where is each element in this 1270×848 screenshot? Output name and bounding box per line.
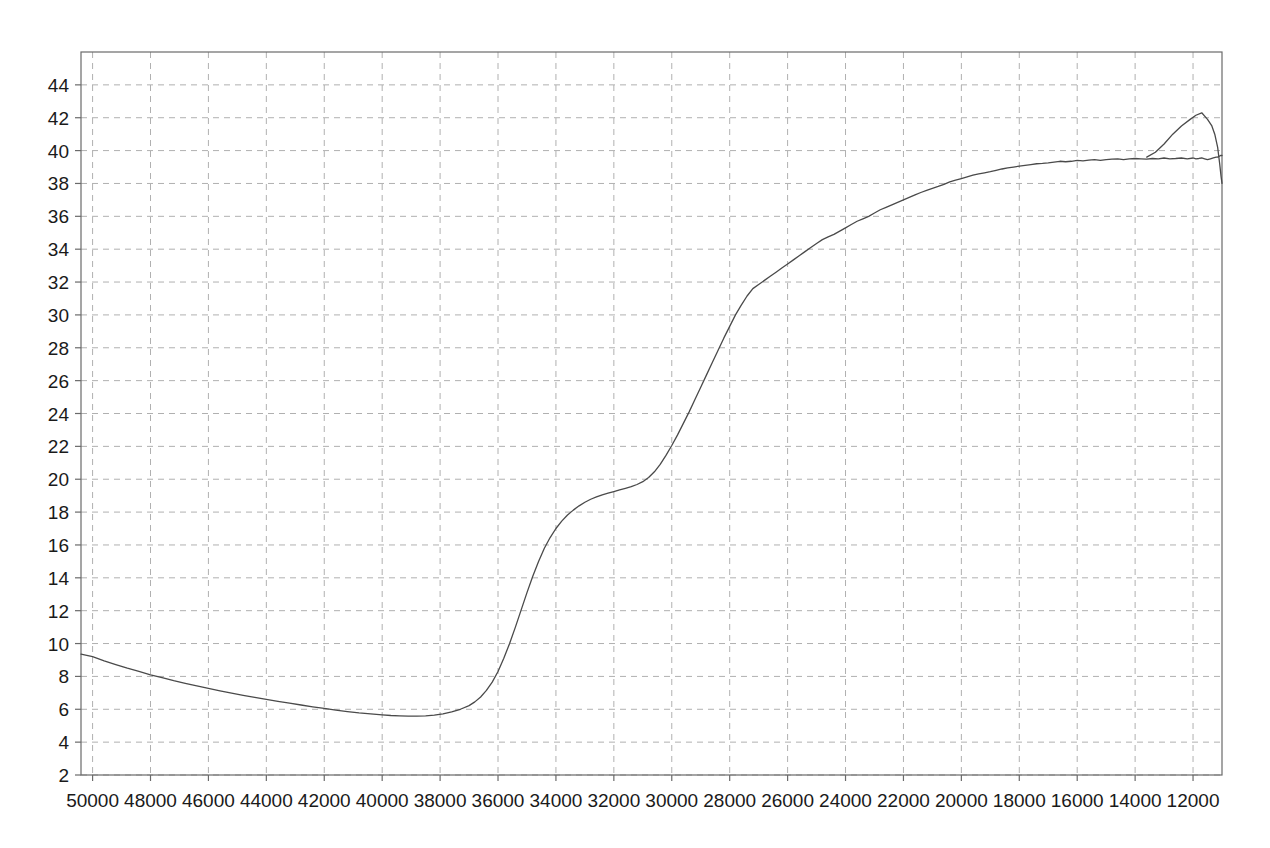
- x-tick-label: 30000: [645, 791, 698, 810]
- x-tick-label: 38000: [414, 791, 467, 810]
- x-tick-label: 28000: [703, 791, 756, 810]
- y-tick-label: 4: [0, 733, 69, 752]
- x-tick-label: 12000: [1167, 791, 1220, 810]
- y-tick-label: 22: [0, 437, 69, 456]
- y-tick-label: 16: [0, 535, 69, 554]
- y-tick-label: 12: [0, 601, 69, 620]
- x-tick-label: 36000: [472, 791, 525, 810]
- y-tick-label: 8: [0, 667, 69, 686]
- x-tick-label: 34000: [530, 791, 583, 810]
- y-tick-label: 42: [0, 108, 69, 127]
- y-tick-label: 40: [0, 141, 69, 160]
- y-tick-label: 36: [0, 207, 69, 226]
- chart-container: 4442403836343230282624222018161412108642…: [0, 0, 1270, 848]
- x-tick-label: 48000: [124, 791, 177, 810]
- grid-lines: [81, 52, 1222, 775]
- y-tick-label: 2: [0, 766, 69, 785]
- y-tick-label: 44: [0, 75, 69, 94]
- y-tick-label: 28: [0, 338, 69, 357]
- x-tick-label: 32000: [587, 791, 640, 810]
- y-tick-label: 26: [0, 371, 69, 390]
- y-tick-label: 34: [0, 240, 69, 259]
- x-tick-label: 14000: [1109, 791, 1162, 810]
- x-tick-label: 42000: [298, 791, 351, 810]
- x-tick-label: 16000: [1051, 791, 1104, 810]
- plot-canvas: [0, 0, 1270, 848]
- x-tick-label: 18000: [993, 791, 1046, 810]
- x-tick-label: 50000: [66, 791, 119, 810]
- x-tick-label: 22000: [877, 791, 930, 810]
- y-tick-label: 14: [0, 568, 69, 587]
- x-tick-label: 26000: [761, 791, 814, 810]
- y-tick-label: 20: [0, 470, 69, 489]
- y-tick-label: 30: [0, 305, 69, 324]
- x-tick-label: 44000: [240, 791, 293, 810]
- x-tick-label: 20000: [935, 791, 988, 810]
- data-series-trace: [81, 113, 1222, 716]
- x-tick-label: 46000: [182, 791, 235, 810]
- x-tick-label: 24000: [819, 791, 872, 810]
- y-tick-label: 10: [0, 634, 69, 653]
- x-tick-label: 40000: [356, 791, 409, 810]
- y-tick-label: 38: [0, 174, 69, 193]
- y-tick-label: 24: [0, 404, 69, 423]
- y-tick-label: 6: [0, 700, 69, 719]
- series-line-trace: [81, 156, 1222, 717]
- y-tick-label: 32: [0, 273, 69, 292]
- y-tick-label: 18: [0, 503, 69, 522]
- series-line-tail: [1147, 113, 1222, 184]
